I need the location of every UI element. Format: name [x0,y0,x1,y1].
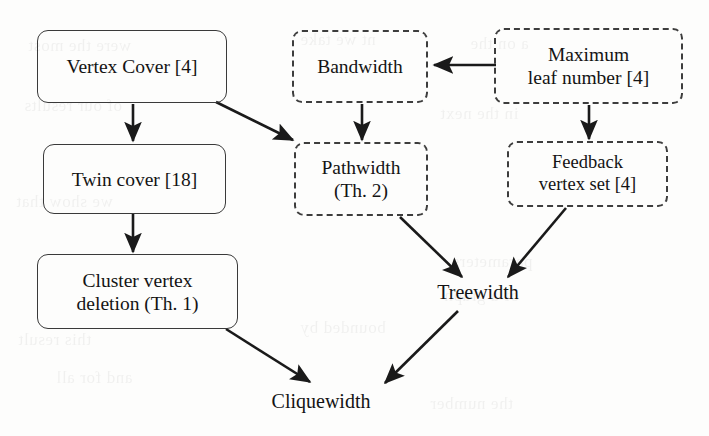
node-bandwidth[interactable]: Bandwidth [292,30,428,103]
node-cliquewidth[interactable]: Cliquewidth [256,389,386,415]
node-twin-cover-label: Twin cover [18] [72,168,197,191]
node-pathwidth[interactable]: Pathwidth (Th. 2) [294,142,428,216]
node-bandwidth-label: Bandwidth [317,55,403,78]
node-feedback-vertex-set[interactable]: Feedback vertex set [4] [507,141,668,207]
edge-treewidth-cliquewidth [385,311,458,383]
node-twin-cover[interactable]: Twin cover [18] [43,144,226,214]
node-pathwidth-label: Pathwidth (Th. 2) [321,156,400,202]
node-cluster-vertex-deletion-label: Cluster vertex deletion (Th. 1) [77,269,199,315]
node-feedback-vertex-set-label: Feedback vertex set [4] [539,152,637,196]
edge-vertexcover-pathwidth [216,102,293,140]
node-maximum-leaf-number-label: Maximum leaf number [4] [528,43,649,89]
figure-canvas: were the most nt we take a on the of our… [0,0,709,436]
node-maximum-leaf-number[interactable]: Maximum leaf number [4] [494,28,683,104]
node-treewidth[interactable]: Treewidth [420,280,536,306]
edge-clustervertexdeletion-cliquewidth [226,329,310,382]
node-treewidth-label: Treewidth [437,281,518,305]
edge-pathwidth-treewidth [400,217,462,277]
edge-feedbackvertexset-treewidth [508,208,566,277]
node-cluster-vertex-deletion[interactable]: Cluster vertex deletion (Th. 1) [37,254,238,329]
node-vertex-cover[interactable]: Vertex Cover [4] [37,30,227,103]
node-cliquewidth-label: Cliquewidth [272,390,371,414]
node-vertex-cover-label: Vertex Cover [4] [66,55,197,78]
